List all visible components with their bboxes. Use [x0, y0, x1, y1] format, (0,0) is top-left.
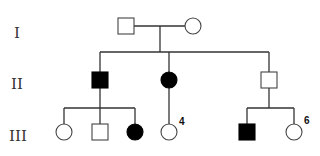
individual-i-2-female-unaffected — [185, 18, 201, 34]
individual-number-4: 4 — [179, 116, 185, 127]
pedigree-chart: I II III 4 6 — [0, 0, 320, 156]
individual-iii-6-female-unaffected — [286, 124, 302, 140]
individual-iii-5-male-affected — [239, 124, 255, 140]
individual-iii-4-female-unaffected — [161, 124, 177, 140]
individual-ii-2-female-affected — [161, 72, 177, 88]
individual-iii-1-female-unaffected — [56, 124, 72, 140]
individual-ii-1-male-affected — [92, 72, 108, 88]
generation-label-iii: III — [9, 127, 27, 145]
individual-iii-2-male-unaffected — [92, 124, 108, 140]
individual-ii-3-male-unaffected — [261, 72, 277, 88]
generation-label-i: I — [14, 24, 20, 42]
individual-iii-3-female-affected — [127, 124, 143, 140]
generation-label-ii: II — [11, 75, 23, 93]
individual-number-6: 6 — [304, 115, 310, 126]
individual-i-1-male-unaffected — [118, 18, 134, 34]
